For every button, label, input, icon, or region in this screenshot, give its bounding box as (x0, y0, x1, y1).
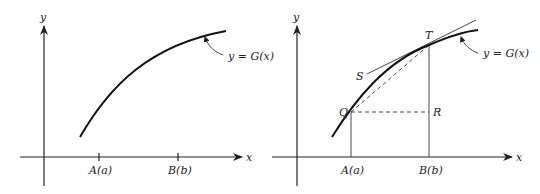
right-tick-a-label: A(a) (340, 164, 364, 177)
left-curve (80, 31, 226, 137)
right-curve-label: y = G(x) (482, 47, 529, 60)
right-label-pointer (461, 37, 478, 53)
point-s-label: S (356, 70, 364, 83)
left-y-axis-label: y (39, 11, 47, 24)
left-graph: y x A(a) B(b) y = G(x) (20, 11, 274, 186)
point-q-label: Q (339, 106, 348, 119)
right-graph: y x A(a) B(b) T S Q R y = G(x) (272, 11, 529, 186)
right-curve (332, 30, 478, 137)
diagram-canvas: y x A(a) B(b) y = G(x) y x A(a) B(b) T S… (0, 0, 540, 194)
right-x-axis-label: x (516, 151, 523, 164)
left-tick-b-label: B(b) (167, 164, 192, 177)
tangent-line (367, 20, 476, 74)
left-x-axis-label: x (246, 151, 253, 164)
left-label-pointer (205, 37, 223, 55)
point-r-label: R (432, 106, 441, 119)
right-tick-b-label: B(b) (418, 164, 443, 177)
left-curve-label: y = G(x) (227, 50, 274, 63)
right-y-axis-label: y (292, 11, 300, 24)
point-t-label: T (425, 29, 434, 42)
left-tick-a-label: A(a) (88, 164, 112, 177)
